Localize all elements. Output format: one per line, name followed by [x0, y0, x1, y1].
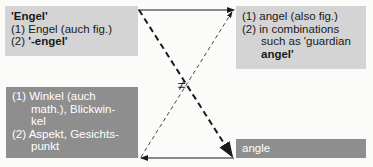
winkel-item-2: (2) Aspekt, Gesichts- — [12, 128, 132, 141]
winkel-item-1: (1) Winkel (auch — [12, 90, 132, 103]
dashed-arrow-winkel-to-angel — [141, 12, 232, 157]
german-item-2: (2) '-engel' — [11, 35, 132, 48]
headword: 'Engel' — [11, 10, 48, 22]
german-winkel-box: (1) Winkel (auch math.), Blickwin- kel (… — [6, 87, 138, 158]
english-item-1: (1) angel (also fig.) — [242, 10, 360, 23]
german-item-1: (1) Engel (auch fig.) — [11, 23, 132, 36]
english-item-2: (2) in combinations — [242, 23, 360, 36]
german-engel-box: 'Engel' (1) Engel (auch fig.) (2) '-enge… — [5, 6, 138, 56]
not-equal-symbol: ≠ — [178, 78, 186, 92]
english-angel-box: (1) angel (also fig.) (2) in combination… — [236, 6, 366, 69]
english-angle-box: angle — [236, 139, 366, 158]
